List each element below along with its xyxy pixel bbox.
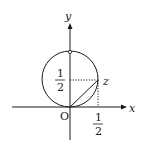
x-axis-label: x (129, 102, 136, 115)
y-axis-arrow-icon (68, 23, 73, 29)
y-tick-denominator: 2 (57, 81, 64, 94)
y-tick-fraction: 1 2 (55, 67, 65, 94)
y-axis-label: y (64, 10, 72, 23)
top-point (68, 50, 71, 53)
origin-label: O (60, 110, 69, 123)
point-z-label: z (102, 75, 109, 88)
x-tick-fraction: 1 2 (93, 111, 103, 138)
x-tick-numerator: 1 (95, 111, 102, 124)
y-tick-numerator: 1 (57, 67, 64, 80)
x-axis-arrow-icon (121, 105, 127, 110)
complex-plane-diagram: y x O z 1 2 1 2 (0, 0, 141, 148)
x-tick-denominator: 2 (95, 125, 102, 138)
